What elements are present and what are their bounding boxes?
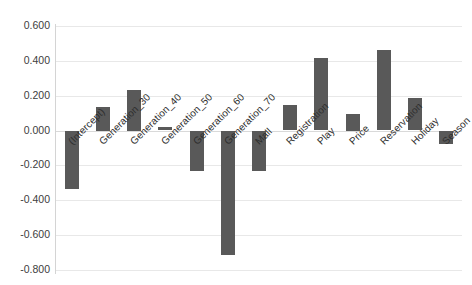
gridline--0.400 (56, 200, 462, 201)
y-tick-label: 0.000 (0, 124, 50, 136)
y-tick-label: 0.400 (0, 54, 50, 66)
bar-reservation (377, 50, 391, 130)
gridline--0.800 (56, 270, 462, 271)
gridline--0.600 (56, 235, 462, 236)
y-tick-label: -0.600 (0, 228, 50, 240)
gridline-0.200 (56, 96, 462, 97)
y-tick-label: 0.600 (0, 19, 50, 31)
y-tick-label: 0.200 (0, 89, 50, 101)
gridline-0.400 (56, 61, 462, 62)
y-tick-label: -0.800 (0, 263, 50, 275)
y-tick-label: -0.400 (0, 193, 50, 205)
y-tick-label: -0.200 (0, 158, 50, 170)
bar-generation_70 (221, 131, 235, 255)
gridline-0.600 (56, 26, 462, 27)
